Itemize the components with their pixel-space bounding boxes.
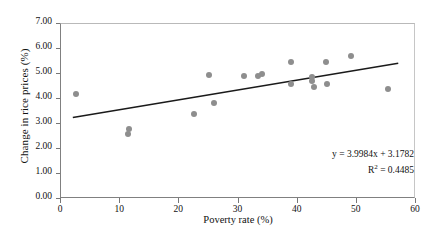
x-tick-label: 20 (163, 204, 193, 214)
y-tick-label: 2.00 (0, 141, 52, 151)
x-axis-title: Poverty rate (%) (60, 214, 416, 225)
x-tick-label: 10 (104, 204, 134, 214)
trendline-annotation: y = 3.9984x + 3.1782 R2 = 0.4485 (282, 148, 414, 177)
y-tick-label: 6.00 (0, 41, 52, 51)
trendline (73, 63, 398, 117)
data-point (348, 53, 354, 59)
chart-figure: Change in rice prices (%) 0.001.002.003.… (0, 0, 444, 238)
y-tick-label: 5.00 (0, 66, 52, 76)
x-tick-mark (60, 198, 61, 203)
r-squared-line: R2 = 0.4485 (282, 161, 414, 177)
data-point (288, 81, 294, 87)
data-point (191, 111, 197, 117)
data-point (324, 81, 330, 87)
x-tick-label: 60 (400, 204, 430, 214)
data-point (311, 84, 317, 90)
data-point (126, 126, 132, 132)
x-tick-mark (356, 198, 357, 203)
x-tick-mark (178, 198, 179, 203)
data-point (288, 59, 294, 65)
y-tick-label: 3.00 (0, 116, 52, 126)
x-tick-mark (415, 198, 416, 203)
data-point (211, 100, 217, 106)
y-tick-label: 7.00 (0, 16, 52, 26)
x-tick-mark (238, 198, 239, 203)
regression-equation: y = 3.9984x + 3.1782 (282, 148, 414, 161)
x-tick-label: 30 (223, 204, 253, 214)
x-tick-mark (119, 198, 120, 203)
data-point (385, 86, 391, 92)
x-tick-mark (297, 198, 298, 203)
data-point (323, 59, 329, 65)
y-tick-label: 1.00 (0, 166, 52, 176)
y-tick-label: 0.00 (0, 191, 52, 201)
data-point (73, 91, 79, 97)
data-point (241, 73, 247, 79)
x-tick-label: 40 (282, 204, 312, 214)
x-tick-label: 50 (341, 204, 371, 214)
y-tick-label: 4.00 (0, 91, 52, 101)
chart-title (70, 0, 230, 7)
x-tick-label: 0 (45, 204, 75, 214)
r-squared-value: = 0.4485 (378, 165, 414, 175)
data-point (206, 72, 212, 78)
